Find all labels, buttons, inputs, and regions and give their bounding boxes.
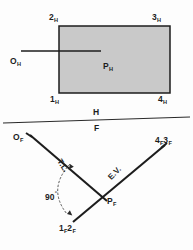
corner-label-1H: 1H — [50, 95, 59, 104]
annotation-angle-90-degrees: 90° — [45, 192, 57, 201]
angle-arrow-lower — [67, 210, 72, 215]
point-label-1F2F: 1F2F — [59, 224, 76, 233]
corner-label-3H: 3H — [152, 13, 161, 22]
top-view-group — [21, 26, 170, 93]
point-label-PF: PF — [107, 197, 116, 206]
point-label-OH: OH — [10, 57, 21, 66]
fold-line-label-F: F — [94, 124, 99, 133]
fold-line-label-H: H — [93, 108, 99, 117]
drawing-canvas: 2H 3H 1H 4H OH PH H F OF 4F3F 1F2F PF T.… — [0, 0, 193, 250]
corner-label-2H: 2H — [49, 13, 58, 22]
corner-label-4H: 4H — [158, 95, 167, 104]
plane-1-2-3-4-H-fill — [59, 26, 170, 93]
point-label-OF: OF — [13, 133, 23, 142]
point-label-PH: PH — [103, 62, 113, 71]
point-label-4F3F: 4F3F — [155, 136, 172, 145]
front-view-group — [26, 133, 167, 222]
